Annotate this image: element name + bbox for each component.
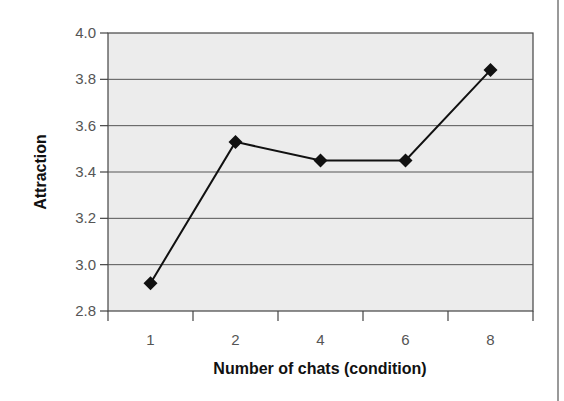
y-tick-label: 3.8 xyxy=(75,70,96,87)
x-tick-label: 6 xyxy=(401,331,409,348)
y-axis: 2.83.03.23.43.63.84.0 xyxy=(75,24,108,319)
y-tick-label: 3.0 xyxy=(75,256,96,273)
y-tick-label: 4.0 xyxy=(75,24,96,41)
x-tick-label: 4 xyxy=(316,331,324,348)
y-tick-label: 3.6 xyxy=(75,117,96,134)
x-axis-title: Number of chats (condition) xyxy=(213,360,426,377)
y-axis-title: Attraction xyxy=(32,134,49,210)
y-tick-label: 2.8 xyxy=(75,302,96,319)
x-tick-label: 2 xyxy=(231,331,239,348)
x-tick-label: 8 xyxy=(486,331,494,348)
y-tick-label: 3.2 xyxy=(75,209,96,226)
y-tick-label: 3.4 xyxy=(75,163,96,180)
chart-canvas: 2.83.03.23.43.63.84.0 12468 Attraction N… xyxy=(0,0,564,401)
x-axis: 12468 xyxy=(108,311,533,348)
x-tick-label: 1 xyxy=(146,331,154,348)
